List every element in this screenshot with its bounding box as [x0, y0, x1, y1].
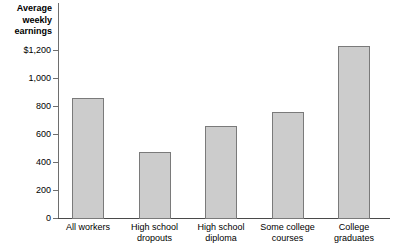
y-axis-tick-mark [53, 190, 58, 191]
y-axis-tick-mark [53, 78, 58, 79]
y-axis-tick-mark [53, 134, 58, 135]
y-axis-tick-mark [53, 50, 58, 51]
bar [272, 112, 304, 219]
y-axis-tick-label: $1,200 [3, 46, 51, 55]
chart-axis-title: Average weekly earnings [0, 3, 52, 38]
y-axis-tick-mark [53, 162, 58, 163]
y-axis-tick-label: 200 [3, 186, 51, 195]
category-label: College graduates [312, 222, 396, 244]
y-axis-tick-label: 600 [3, 130, 51, 139]
y-axis-tick-label: 800 [3, 102, 51, 111]
bar-chart: Average weekly earnings 02004006008001,0… [0, 0, 398, 248]
y-axis-tick-label: 1,000 [3, 74, 51, 83]
y-axis-tick-mark [53, 218, 58, 219]
bar [205, 126, 237, 219]
y-axis-tick-label: 400 [3, 158, 51, 167]
bar [139, 152, 171, 219]
bar [338, 46, 370, 219]
y-axis-tick-label: 0 [3, 214, 51, 223]
y-axis-line [58, 3, 59, 218]
y-axis-tick-mark [53, 106, 58, 107]
bar [72, 98, 104, 219]
